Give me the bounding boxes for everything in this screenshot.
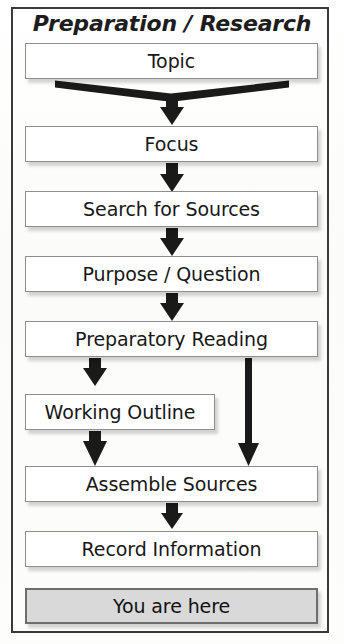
flow-node-label: Record Information (82, 538, 262, 560)
flow-node-preparatory-reading[interactable]: Preparatory Reading (25, 321, 318, 357)
page-title: Preparation / Research (11, 11, 333, 36)
flow-node-label: Working Outline (45, 401, 196, 423)
flowchart-page: Preparation / Research (0, 0, 344, 644)
flow-node-label: Search for Sources (83, 198, 260, 220)
you-are-here-label: You are here (113, 595, 230, 617)
flow-node-label: Preparatory Reading (75, 328, 268, 350)
flow-node-label: Purpose / Question (83, 263, 261, 285)
flow-node-search-for-sources[interactable]: Search for Sources (25, 191, 318, 227)
flow-node-label: Topic (148, 50, 195, 72)
flow-node-record-information[interactable]: Record Information (25, 531, 318, 567)
flow-node-focus[interactable]: Focus (25, 126, 318, 162)
flow-node-purpose-question[interactable]: Purpose / Question (25, 256, 318, 292)
you-are-here-badge: You are here (25, 588, 318, 624)
flow-node-topic[interactable]: Topic (25, 43, 318, 79)
flow-node-assemble-sources[interactable]: Assemble Sources (25, 466, 318, 502)
flow-node-working-outline[interactable]: Working Outline (25, 394, 215, 430)
flow-node-label: Focus (145, 133, 199, 155)
flow-node-label: Assemble Sources (86, 473, 258, 495)
